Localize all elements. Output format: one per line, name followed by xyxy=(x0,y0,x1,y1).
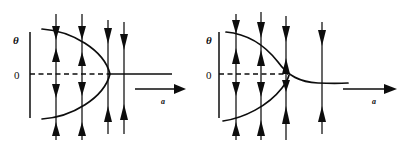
flow-arrow-up-icon xyxy=(257,50,265,66)
arrow-right-icon xyxy=(384,84,397,94)
flow-arrow-up-icon xyxy=(104,106,112,122)
flow-line-2 xyxy=(78,14,86,140)
flow-arrow-up-icon xyxy=(120,104,128,120)
flow-arrow-down-icon xyxy=(104,28,112,44)
flow-line-2 xyxy=(257,12,265,140)
flow-arrow-down-icon xyxy=(282,26,290,42)
flow-arrow-up-icon xyxy=(78,122,86,136)
flow-arrow-up-icon xyxy=(282,106,290,124)
nullcline-s-curve xyxy=(226,32,348,83)
flow-arrow-down-icon xyxy=(318,30,326,46)
right-phase-portrait-panel: θ 0 a xyxy=(206,0,412,150)
parameter-axis-arrow xyxy=(135,84,186,94)
flow-arrow-down-icon xyxy=(232,82,240,96)
right-zero-label: 0 xyxy=(206,69,212,81)
flow-arrow-down-icon xyxy=(232,20,240,34)
flow-arrow-down-icon xyxy=(78,82,86,96)
flow-arrow-up-icon xyxy=(52,48,60,62)
left-theta-axis-label: θ xyxy=(13,34,19,46)
flow-arrow-up-icon xyxy=(257,120,265,136)
flow-arrow-up-icon xyxy=(318,106,326,122)
flow-arrow-up-icon xyxy=(78,52,86,66)
parameter-axis-arrow xyxy=(343,84,397,94)
flow-arrow-down-icon xyxy=(52,84,60,98)
flow-arrow-up-icon xyxy=(52,122,60,136)
left-phase-portrait-panel: θ 0 a xyxy=(0,0,206,150)
left-zero-label: 0 xyxy=(14,69,20,81)
figure-canvas: θ 0 a xyxy=(0,0,412,150)
flow-arrow-down-icon xyxy=(257,22,265,38)
flow-arrow-down-icon xyxy=(52,26,60,40)
flow-arrow-up-icon xyxy=(232,48,240,64)
left-parameter-label: a xyxy=(161,97,165,106)
right-parameter-label: a xyxy=(372,97,376,106)
flow-line-1 xyxy=(52,14,60,140)
flow-arrow-down-icon xyxy=(257,82,265,97)
flow-line-4 xyxy=(318,22,326,134)
nullcline-lower-branch-curve xyxy=(223,75,289,121)
flow-line-3 xyxy=(104,20,112,134)
flow-arrow-down-icon xyxy=(78,26,86,40)
flow-arrow-down-icon xyxy=(120,34,128,50)
right-theta-axis-label: θ xyxy=(206,34,212,46)
arrow-right-icon xyxy=(174,84,186,94)
flow-line-4 xyxy=(120,22,128,134)
flow-arrow-up-icon xyxy=(282,58,290,74)
flow-arrow-up-icon xyxy=(232,122,240,136)
